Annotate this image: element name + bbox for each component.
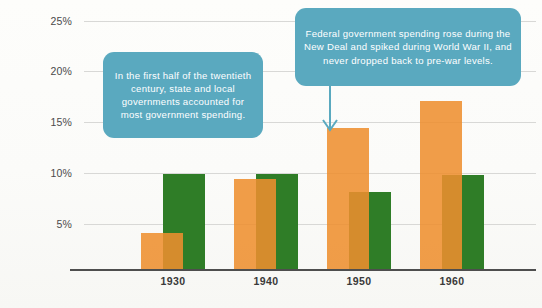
y-tick-label-20: 20% bbox=[12, 65, 72, 77]
x-tick-label-1960: 1960 bbox=[412, 275, 492, 287]
y-tick-label-5: 5% bbox=[12, 218, 72, 230]
down-arrow-icon bbox=[318, 86, 342, 136]
callout-state-local[interactable]: In the first half of the twentieth centu… bbox=[103, 52, 263, 138]
y-tick-label-25: 25% bbox=[12, 15, 72, 27]
bar-federal-1930[interactable] bbox=[141, 233, 183, 269]
x-axis-line bbox=[70, 269, 536, 271]
bar-federal-1940[interactable] bbox=[234, 179, 276, 269]
y-tick-label-15: 15% bbox=[12, 116, 72, 128]
y-tick-label-10: 10% bbox=[12, 167, 72, 179]
bar-federal-1960[interactable] bbox=[420, 101, 462, 269]
callout-federal[interactable]: Federal government spending rose during … bbox=[295, 8, 521, 86]
x-tick-label-1950: 1950 bbox=[319, 275, 399, 287]
chart-page: 25% 20% 15% 10% 5% 1930 1940 1950 1960 bbox=[0, 0, 542, 308]
bar-federal-1950[interactable] bbox=[327, 128, 369, 269]
x-tick-label-1940: 1940 bbox=[226, 275, 306, 287]
bar-chart: 25% 20% 15% 10% 5% 1930 1940 1950 1960 bbox=[0, 0, 542, 308]
x-tick-label-1930: 1930 bbox=[133, 275, 213, 287]
gridline-10 bbox=[84, 173, 536, 174]
